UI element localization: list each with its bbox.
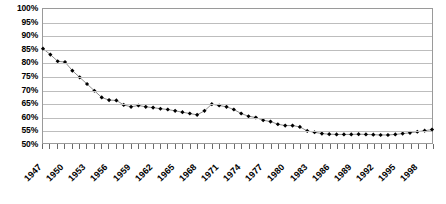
x-tick-label: 1992 <box>354 162 375 183</box>
plot-area <box>42 8 433 144</box>
data-point-marker <box>166 107 170 111</box>
y-tick-label: 85% <box>0 44 38 54</box>
gridline <box>43 91 432 92</box>
gridline <box>43 36 432 37</box>
x-tick-label: 1989 <box>332 162 353 183</box>
data-point-marker <box>158 107 162 111</box>
x-tick-label: 1995 <box>376 162 397 183</box>
data-point-marker <box>298 125 302 129</box>
x-tick-label: 1956 <box>89 162 110 183</box>
x-tick-label: 1947 <box>22 162 43 183</box>
gridline <box>43 50 432 51</box>
data-point-marker <box>327 132 331 136</box>
y-axis: 100%95%90%85%80%75%70%65%60%55%50% <box>0 0 38 146</box>
data-point-marker <box>114 98 118 102</box>
y-tick-label: 60% <box>0 112 38 122</box>
x-tick-label: 1962 <box>133 162 154 183</box>
data-point-marker <box>107 98 111 102</box>
x-tick-label: 1971 <box>199 162 220 183</box>
data-point-marker <box>144 105 148 109</box>
y-tick-label: 100% <box>0 3 38 13</box>
x-tick-label: 1977 <box>244 162 265 183</box>
data-point-marker <box>342 132 346 136</box>
data-point-marker <box>276 122 280 126</box>
data-point-marker <box>180 110 184 114</box>
data-point-marker <box>379 133 383 137</box>
x-tick-label: 1968 <box>177 162 198 183</box>
y-tick-label: 55% <box>0 125 38 135</box>
gridline <box>43 23 432 24</box>
data-point-marker <box>349 132 353 136</box>
x-tick-label: 1965 <box>155 162 176 183</box>
data-point-marker <box>357 132 361 136</box>
data-point-marker <box>129 105 133 109</box>
data-point-marker <box>290 124 294 128</box>
gridline <box>43 104 432 105</box>
data-point-marker <box>195 113 199 117</box>
data-point-marker <box>268 119 272 123</box>
data-point-marker <box>188 111 192 115</box>
data-point-marker <box>393 132 397 136</box>
data-point-marker <box>224 105 228 109</box>
data-point-marker <box>386 133 390 137</box>
y-tick-label: 95% <box>0 17 38 27</box>
x-tick-label: 1974 <box>221 162 242 183</box>
y-tick-label: 90% <box>0 30 38 40</box>
data-point-marker <box>173 109 177 113</box>
series-markers <box>41 47 434 137</box>
data-point-marker <box>283 124 287 128</box>
chart-figure: 100%95%90%85%80%75%70%65%60%55%50% 19471… <box>0 0 446 204</box>
gridline <box>43 77 432 78</box>
data-point-marker <box>371 133 375 137</box>
series-line <box>43 49 432 135</box>
x-tick-label: 1980 <box>266 162 287 183</box>
y-tick-label: 65% <box>0 98 38 108</box>
data-point-marker <box>239 111 243 115</box>
data-point-marker <box>364 132 368 136</box>
gridline <box>43 63 432 64</box>
y-tick-label: 70% <box>0 85 38 95</box>
series-line-chart <box>43 9 432 143</box>
gridline <box>43 118 432 119</box>
x-tick-label: 1950 <box>44 162 65 183</box>
x-tick-label: 1986 <box>310 162 331 183</box>
data-point-marker <box>232 107 236 111</box>
x-tick-label: 1959 <box>111 162 132 183</box>
y-tick-label: 75% <box>0 71 38 81</box>
data-point-marker <box>151 106 155 110</box>
y-tick-label: 80% <box>0 57 38 67</box>
x-tick-label: 1998 <box>398 162 419 183</box>
gridline <box>43 131 432 132</box>
x-tick-label: 1953 <box>66 162 87 183</box>
x-tick-label: 1983 <box>288 162 309 183</box>
x-axis-labels: 1947195019531956195919621965196819711974… <box>0 148 446 188</box>
data-point-marker <box>334 132 338 136</box>
